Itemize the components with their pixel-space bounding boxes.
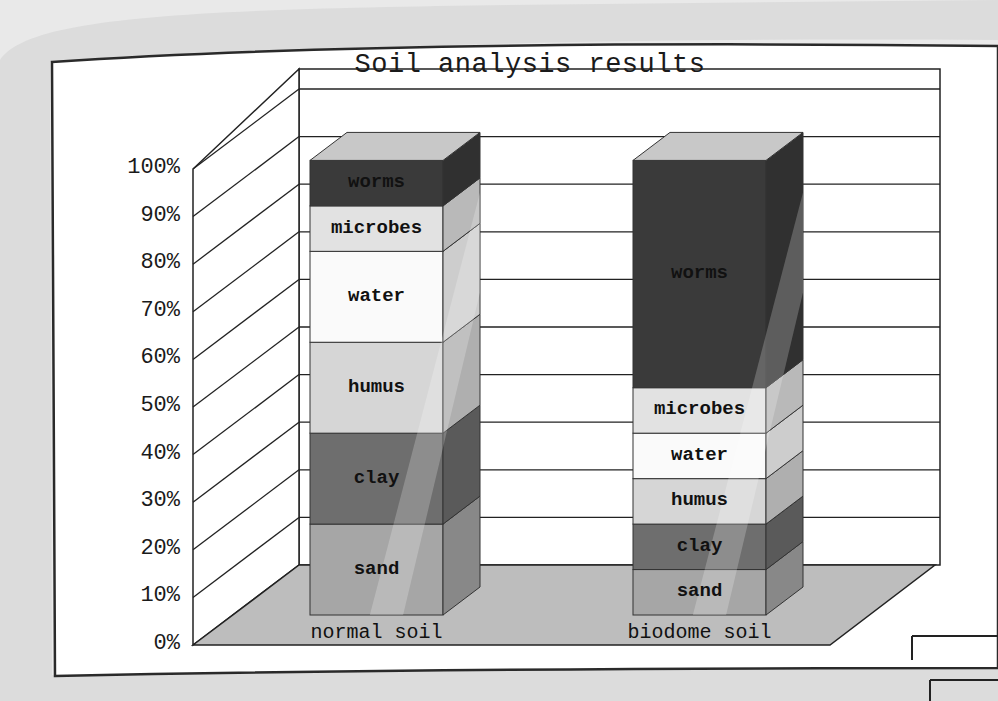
y-tick-label: 60%: [92, 345, 180, 370]
y-tick-label: 80%: [92, 250, 180, 275]
x-category-label: biodome soil: [608, 621, 791, 644]
chart-title: Soil analysis results: [0, 50, 998, 80]
segment-label-sand: sand: [633, 580, 766, 602]
segment-label-clay: clay: [633, 535, 766, 557]
y-tick-label: 0%: [92, 631, 180, 656]
segment-label-microbes: microbes: [310, 217, 443, 239]
y-tick-label: 50%: [92, 393, 180, 418]
segment-label-humus: humus: [310, 376, 443, 398]
x-category-label: normal soil: [285, 621, 468, 644]
segment-label-clay: clay: [310, 467, 443, 489]
segment-label-microbes: microbes: [633, 398, 766, 420]
y-tick-label: 100%: [92, 155, 180, 180]
side-wall: [193, 69, 299, 645]
segment-label-worms: worms: [633, 262, 766, 284]
y-tick-label: 10%: [92, 583, 180, 608]
segment-label-water: water: [633, 444, 766, 466]
segment-label-sand: sand: [310, 558, 443, 580]
y-tick-label: 30%: [92, 488, 180, 513]
segment-label-worms: worms: [310, 171, 443, 193]
segment-label-humus: humus: [633, 489, 766, 511]
y-tick-label: 90%: [92, 203, 180, 228]
y-tick-label: 20%: [92, 536, 180, 561]
segment-label-water: water: [310, 285, 443, 307]
y-tick-label: 40%: [92, 441, 180, 466]
y-tick-label: 70%: [92, 298, 180, 323]
